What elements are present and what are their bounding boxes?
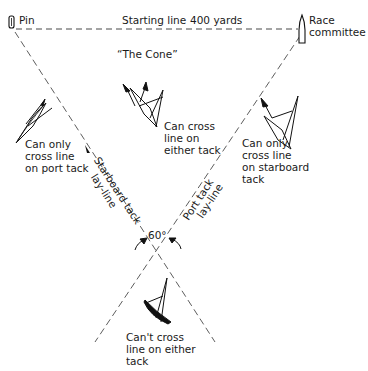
zone-right-line2: cross line (242, 149, 292, 161)
zone-left-line2: cross line (25, 150, 75, 162)
zone-right-line3: on starboard (242, 161, 309, 173)
committee-label-line2: committee (309, 26, 366, 38)
zone-bottom-line3: tack (126, 355, 148, 367)
angle-label: 60° (148, 229, 167, 241)
zone-center-line3: either tack (164, 144, 221, 156)
zone-center-line2: line on (164, 132, 199, 144)
layline-arrow-icon (85, 145, 90, 153)
start-line-length-label: 400 yards (190, 14, 242, 26)
zone-left-line3: on port tack (25, 162, 89, 174)
sailboat-bottom-icon (144, 278, 171, 324)
zone-bottom-line1: Can't cross (126, 331, 184, 343)
zone-right-line4: tack (242, 173, 264, 185)
pin-label: Pin (19, 14, 35, 26)
committee-boat-icon (299, 15, 305, 43)
sailboat-center-icon (123, 82, 163, 127)
starting-line-label: Starting line (122, 14, 186, 26)
sailboat-port-tack-icon (16, 99, 52, 143)
zone-center-line1: Can cross (164, 120, 215, 132)
starting-line-cone-diagram (0, 0, 368, 371)
committee-label-line1: Race (309, 14, 335, 26)
cone-label: “The Cone” (117, 48, 178, 60)
zone-bottom-line2: line on either (126, 343, 196, 355)
zone-left-line1: Can only (25, 138, 71, 150)
pin-buoy-icon (9, 16, 14, 28)
zone-right-line1: Can only (242, 137, 288, 149)
